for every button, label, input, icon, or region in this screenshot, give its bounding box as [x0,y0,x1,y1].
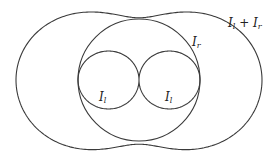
label-ir: Ir [192,36,201,50]
label-ir-sub: r [197,41,201,50]
label-il-left-sub: l [104,96,107,105]
label-il-right-sub: l [170,96,173,105]
figure-eight-curve-il [78,51,200,109]
label-il-plus-ir: Il + Ir [228,17,262,31]
label-sum-op: + [235,16,253,30]
diagram-canvas: Il + Ir Ir Il Il [0,0,278,157]
label-il-left: Il [99,91,106,105]
label-sum-sub2: r [258,22,262,31]
label-il-right: Il [165,91,172,105]
